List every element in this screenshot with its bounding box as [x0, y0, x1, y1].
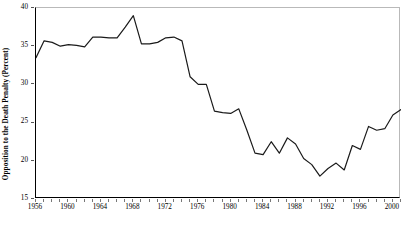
- x-tick-mark: [359, 199, 360, 202]
- x-tick-mark: [205, 199, 206, 202]
- x-tick-mark: [108, 199, 109, 202]
- x-tick-mark: [246, 199, 247, 202]
- x-tick-mark: [213, 199, 214, 202]
- x-tick-mark: [222, 199, 223, 202]
- x-tick-mark: [392, 199, 393, 202]
- series-line: [36, 8, 401, 199]
- x-tick-mark: [238, 199, 239, 202]
- y-tick-label: 30: [6, 79, 28, 87]
- x-tick-mark: [67, 199, 68, 202]
- x-tick-mark: [84, 199, 85, 202]
- y-tick-label: 35: [6, 41, 28, 49]
- x-tick-mark: [327, 199, 328, 202]
- x-tick-mark: [189, 199, 190, 202]
- x-tick-mark: [368, 199, 369, 202]
- opposition-series-polyline: [36, 16, 401, 176]
- x-tick-mark: [51, 199, 52, 202]
- x-tick-mark: [254, 199, 255, 202]
- x-tick-mark: [132, 199, 133, 202]
- y-tick-mark: [31, 45, 34, 46]
- x-tick-label: 2000: [372, 203, 405, 211]
- x-tick-mark: [262, 199, 263, 202]
- x-tick-mark: [343, 199, 344, 202]
- x-tick-mark: [92, 199, 93, 202]
- x-tick-mark: [278, 199, 279, 202]
- y-tick-label: 25: [6, 117, 28, 125]
- y-tick-label: 40: [6, 3, 28, 11]
- x-tick-mark: [230, 199, 231, 202]
- x-tick-mark: [35, 199, 36, 202]
- x-tick-mark: [270, 199, 271, 202]
- y-tick-mark: [31, 83, 34, 84]
- x-tick-mark: [400, 199, 401, 202]
- y-tick-mark: [31, 160, 34, 161]
- y-tick-label: 20: [6, 156, 28, 164]
- x-tick-mark: [376, 199, 377, 202]
- x-tick-mark: [43, 199, 44, 202]
- x-tick-mark: [116, 199, 117, 202]
- x-tick-mark: [384, 199, 385, 202]
- y-tick-mark: [31, 198, 34, 199]
- x-tick-mark: [295, 199, 296, 202]
- x-tick-mark: [124, 199, 125, 202]
- x-tick-mark: [173, 199, 174, 202]
- chart-figure: Opposition to the Death Penalty (Percent…: [0, 0, 405, 227]
- y-tick-label: 15: [6, 194, 28, 202]
- x-tick-mark: [351, 199, 352, 202]
- x-tick-mark: [197, 199, 198, 202]
- y-tick-mark: [31, 122, 34, 123]
- x-tick-mark: [319, 199, 320, 202]
- x-tick-mark: [149, 199, 150, 202]
- x-tick-mark: [140, 199, 141, 202]
- x-tick-mark: [165, 199, 166, 202]
- y-tick-mark: [31, 7, 34, 8]
- x-tick-mark: [157, 199, 158, 202]
- x-tick-mark: [59, 199, 60, 202]
- x-tick-mark: [311, 199, 312, 202]
- x-tick-mark: [76, 199, 77, 202]
- plot-area: [35, 7, 400, 198]
- x-tick-mark: [303, 199, 304, 202]
- x-tick-mark: [100, 199, 101, 202]
- x-tick-mark: [181, 199, 182, 202]
- x-tick-mark: [286, 199, 287, 202]
- x-tick-mark: [335, 199, 336, 202]
